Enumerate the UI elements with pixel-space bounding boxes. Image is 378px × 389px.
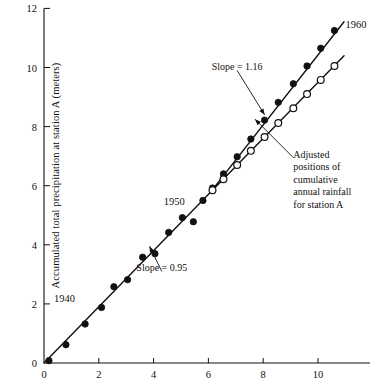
adjusted-series-label-line: for station A (293, 199, 344, 210)
y-axis-tick-label: 2 (32, 299, 37, 310)
data-point-series-0 (200, 197, 206, 203)
year-end-label: 1960 (345, 19, 366, 30)
x-axis-tick-label: 10 (313, 369, 324, 380)
adjusted-series-label-line: annual rainfall (293, 186, 351, 197)
chart-figure: Accumulated total precipitation at stati… (0, 0, 378, 389)
data-point-series-1 (247, 147, 254, 154)
data-point-series-1 (234, 162, 241, 169)
data-point-series-0 (179, 214, 185, 220)
x-axis-tick-label: 8 (261, 369, 266, 380)
data-point-series-0 (261, 117, 267, 123)
data-point-series-0 (331, 27, 337, 33)
data-point-series-0 (165, 229, 171, 235)
data-point-series-0 (304, 63, 310, 69)
adjusted-series-label-line: cumulative (293, 174, 338, 185)
data-point-series-0 (234, 154, 240, 160)
data-point-series-0 (275, 99, 281, 105)
y-axis-tick-label: 6 (32, 181, 37, 192)
x-axis-tick-label: 0 (41, 369, 46, 380)
data-point-series-1 (290, 105, 297, 112)
data-point-series-0 (111, 284, 117, 290)
data-point-series-0 (63, 341, 69, 347)
adjusted-series-label-leader (255, 119, 293, 157)
annotations: Slope = 1.16Slope = 0.95Adjustedposition… (54, 19, 366, 305)
data-point-series-1 (220, 176, 227, 183)
x-axis-tick-label: 4 (151, 369, 157, 380)
x-axis-tick-label: 2 (96, 369, 101, 380)
data-point-series-0 (98, 304, 104, 310)
slope-upper-label-arrowhead (259, 108, 264, 114)
y-axis-tick-label: 12 (27, 3, 38, 14)
slope-upper-label: Slope = 1.16 (212, 61, 263, 72)
data-point-series-1 (317, 77, 324, 84)
data-point-series-0 (46, 357, 52, 363)
y-axis-tick-label: 8 (32, 122, 37, 133)
data-point-series-0 (190, 219, 196, 225)
data-point-series-1 (304, 91, 311, 98)
data-point-series-1 (331, 63, 338, 70)
year-start-label: 1940 (54, 293, 75, 304)
data-point-series-1 (275, 120, 282, 127)
slope-lower-label: Slope = 0.95 (136, 262, 187, 273)
double-mass-curve-plot: 0246810024681012 Slope = 1.16Slope = 0.9… (0, 0, 378, 389)
data-point-series-0 (82, 321, 88, 327)
data-point-series-0 (318, 45, 324, 51)
data-point-series-0 (248, 136, 254, 142)
data-point-series-1 (209, 187, 216, 194)
year-mid-label: 1950 (164, 196, 185, 207)
adjusted-series-label-line: positions of (293, 161, 341, 172)
x-axis-tick-label: 6 (206, 369, 211, 380)
data-point-series-1 (261, 134, 268, 141)
data-point-series-0 (139, 254, 145, 260)
data-point-series-0 (124, 276, 130, 282)
y-axis-tick-label: 4 (32, 240, 38, 251)
data-point-series-0 (290, 81, 296, 87)
slope-upper-label-leader (237, 70, 264, 114)
y-axis-tick-label: 10 (27, 63, 38, 74)
adjusted-series-label-line: Adjusted (293, 149, 329, 160)
y-axis-tick-label: 0 (32, 358, 37, 369)
